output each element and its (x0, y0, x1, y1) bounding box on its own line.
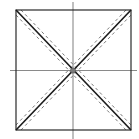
square-diagonals-diagram (0, 0, 139, 139)
center-point-group (70, 68, 75, 73)
center-point-marker (70, 68, 75, 73)
